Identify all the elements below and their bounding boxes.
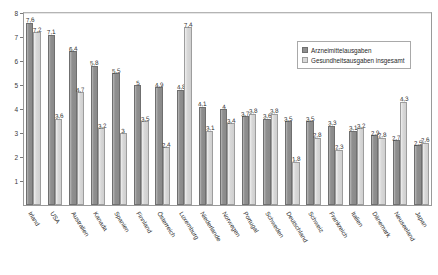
x-axis-category: Frankreich bbox=[327, 208, 343, 274]
bar-light[interactable]: 2,3 bbox=[335, 150, 342, 205]
bar-value-label: 3,8 bbox=[248, 107, 257, 115]
bar-light[interactable]: 3,6 bbox=[55, 119, 62, 205]
bar-light[interactable]: 3,8 bbox=[249, 114, 256, 205]
bar-light[interactable]: 3,2 bbox=[98, 128, 105, 205]
x-axis-category-labels: IrlandUSAAustralienKanadaSpanienFinnland… bbox=[24, 208, 431, 274]
y-axis-tick-label: 1 bbox=[14, 178, 18, 185]
bar-group: 7,67,2 bbox=[26, 13, 41, 205]
bar-dark[interactable]: 4,8 bbox=[177, 90, 184, 205]
x-axis-category: Luxemburg bbox=[177, 208, 193, 274]
x-axis-category: Schweiz bbox=[306, 208, 322, 274]
bar-group: 6,44,7 bbox=[69, 13, 84, 205]
bar-light[interactable]: 4,7 bbox=[77, 92, 84, 205]
bar-value-label: 4,9 bbox=[155, 80, 164, 88]
y-axis-tick-mark bbox=[20, 133, 23, 134]
bar-value-label: 4 bbox=[222, 102, 226, 109]
bar-value-label: 3 bbox=[121, 126, 125, 133]
bar-value-label: 2,8 bbox=[313, 131, 322, 139]
bar-dark[interactable]: 6,4 bbox=[69, 51, 76, 205]
bar-light[interactable]: 2,8 bbox=[314, 138, 321, 205]
bar-light[interactable]: 3,4 bbox=[227, 123, 234, 205]
bar-group: 2,52,6 bbox=[414, 13, 429, 205]
x-axis-category-label: Irland bbox=[27, 210, 41, 227]
bar-value-label: 3,5 bbox=[284, 114, 293, 122]
bar-value-label: 3,1 bbox=[205, 124, 214, 132]
bar-dark[interactable]: 3,7 bbox=[242, 116, 249, 205]
bar-value-label: 3,5 bbox=[306, 114, 315, 122]
x-axis-category: Japan bbox=[413, 208, 429, 274]
x-axis-category: Spanien bbox=[112, 208, 128, 274]
x-axis-category-label: Schweiz bbox=[307, 210, 325, 234]
bar-value-label: 5,8 bbox=[90, 59, 99, 67]
bar-value-label: 6,4 bbox=[68, 44, 77, 52]
bar-light[interactable]: 2,4 bbox=[163, 147, 170, 205]
bar-dark[interactable]: 5,8 bbox=[91, 66, 98, 205]
legend-item[interactable]: Gesundheitsausgaben insgesamt bbox=[302, 55, 404, 65]
bar-value-label: 7,2 bbox=[33, 25, 42, 33]
bar-dark[interactable]: 4,1 bbox=[199, 107, 206, 205]
bar-value-label: 4,3 bbox=[399, 95, 408, 103]
legend-label: Gesundheitsausgaben insgesamt bbox=[311, 57, 404, 64]
x-axis-category-label: Spanien bbox=[113, 210, 131, 233]
bar-group: 5,53 bbox=[112, 13, 127, 205]
bar-light[interactable]: 2,6 bbox=[422, 143, 429, 205]
bar-light[interactable]: 3,1 bbox=[206, 131, 213, 205]
y-axis-tick-mark bbox=[20, 157, 23, 158]
bar-dark[interactable]: 2,7 bbox=[393, 140, 400, 205]
x-axis-category-label: USA bbox=[49, 210, 62, 225]
bar-value-label: 5 bbox=[135, 78, 139, 85]
bar-chart: 87654321 7,67,27,13,66,44,75,83,25,5353,… bbox=[0, 0, 438, 275]
bar-light[interactable]: 4,3 bbox=[400, 102, 407, 205]
bar-value-label: 7,6 bbox=[25, 16, 34, 24]
x-axis-category: Portugal bbox=[241, 208, 257, 274]
x-axis-category: Norwegen bbox=[220, 208, 236, 274]
bar-dark[interactable]: 7,1 bbox=[48, 35, 55, 205]
bar-dark[interactable]: 5,5 bbox=[112, 73, 119, 205]
x-axis-category: Schweden bbox=[263, 208, 279, 274]
bar-light[interactable]: 3,2 bbox=[357, 128, 364, 205]
bar-group: 4,13,1 bbox=[199, 13, 214, 205]
x-axis-category-label: Finnland bbox=[135, 210, 154, 234]
y-axis-tick-label: 8 bbox=[14, 10, 18, 17]
legend-swatch-icon bbox=[302, 57, 308, 63]
bar-value-label: 3,3 bbox=[327, 119, 336, 127]
y-axis-tick-mark bbox=[20, 109, 23, 110]
bar-light[interactable]: 3 bbox=[120, 133, 127, 205]
x-axis-category: USA bbox=[48, 208, 64, 274]
bar-value-label: 5,5 bbox=[111, 66, 120, 74]
y-axis-tick-label: 7 bbox=[14, 34, 18, 41]
bar-light[interactable]: 1,8 bbox=[292, 162, 299, 205]
bar-value-label: 4,1 bbox=[198, 100, 207, 108]
bar-light[interactable]: 7,2 bbox=[33, 32, 40, 205]
bar-light[interactable]: 2,8 bbox=[378, 138, 385, 205]
y-axis-tick-label: 2 bbox=[14, 154, 18, 161]
bar-dark[interactable]: 2,9 bbox=[371, 135, 378, 205]
x-axis-category: Dänemark bbox=[370, 208, 386, 274]
bar-dark[interactable]: 2,5 bbox=[414, 145, 421, 205]
x-axis-category-label: Frankreich bbox=[328, 210, 350, 239]
x-axis-category: Neuseeland bbox=[392, 208, 408, 274]
x-axis-category-label: Schweden bbox=[264, 210, 286, 239]
bar-value-label: 3,6 bbox=[54, 112, 63, 120]
y-axis-tick-mark bbox=[20, 37, 23, 38]
bar-group: 5,83,2 bbox=[91, 13, 106, 205]
bar-dark[interactable]: 5 bbox=[134, 85, 141, 205]
x-axis-category-label: Italien bbox=[350, 210, 365, 228]
bar-group: 4,87,4 bbox=[177, 13, 192, 205]
bar-dark[interactable]: 3,1 bbox=[349, 131, 356, 205]
bar-value-label: 3,5 bbox=[140, 114, 149, 122]
bar-light[interactable]: 3,5 bbox=[141, 121, 148, 205]
bar-dark[interactable]: 3,5 bbox=[285, 121, 292, 205]
x-axis-category: Australien bbox=[69, 208, 85, 274]
bar-dark[interactable]: 3,3 bbox=[328, 126, 335, 205]
legend-item[interactable]: Arzneimittelausgaben bbox=[302, 45, 404, 55]
bar-light[interactable]: 7,4 bbox=[184, 27, 191, 205]
x-axis-category-label: Kanada bbox=[92, 210, 109, 232]
bar-light[interactable]: 3,8 bbox=[271, 114, 278, 205]
bar-group: 7,13,6 bbox=[48, 13, 63, 205]
bar-dark[interactable]: 7,6 bbox=[26, 23, 33, 205]
legend-label: Arzneimittelausgaben bbox=[311, 47, 372, 54]
chart-legend: ArzneimittelausgabenGesundheitsausgaben … bbox=[297, 41, 411, 69]
bar-dark[interactable]: 3,6 bbox=[263, 119, 270, 205]
bar-value-label: 4,7 bbox=[76, 85, 85, 93]
